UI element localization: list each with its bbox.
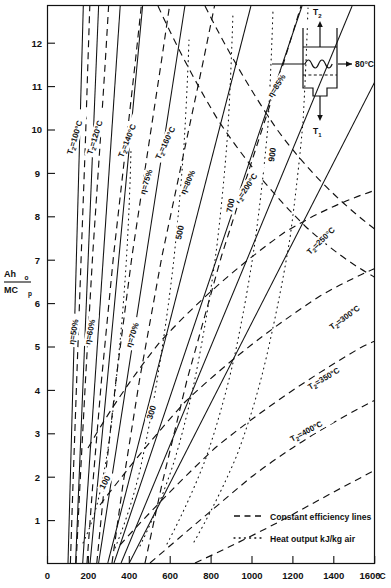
chart-figure: 1 2 3 4 5 6 7 8 9 10 11 12 Ah o MC p 0 2…	[0, 0, 391, 588]
x-tick-label-600: 600	[162, 570, 178, 581]
legend-label-heat-output: Heat output kJ/kg air	[270, 534, 356, 544]
x-axis-unit-label: °C	[376, 571, 386, 581]
x-tick-label-1200: 1200	[282, 570, 303, 581]
y-axis-title-denominator-sub: p	[28, 290, 32, 298]
y-tick-label-9: 9	[35, 168, 40, 179]
x-tick-label-200: 200	[80, 570, 96, 581]
x-tick-label-1000: 1000	[241, 570, 262, 581]
heat-output-label-900: 900	[266, 147, 278, 163]
x-tick-label-0: 0	[45, 570, 50, 581]
y-tick-label-10: 10	[31, 124, 42, 135]
schematic-label-80c: 80°C	[355, 59, 374, 69]
x-tick-label-400: 400	[121, 570, 137, 581]
y-axis-title-numerator: Ah	[4, 269, 16, 279]
y-tick-label-8: 8	[35, 211, 40, 222]
y-tick-label-2: 2	[35, 472, 40, 483]
x-tick-label-1400: 1400	[323, 570, 344, 581]
x-axis-tick-labels: 0 200 400 600 800 1000 1200 1400 1600 °C	[45, 570, 386, 581]
y-axis-title-denominator: MC	[4, 285, 18, 295]
y-tick-label-11: 11	[32, 81, 43, 92]
y-tick-label-12: 12	[31, 38, 42, 49]
y-tick-label-4: 4	[35, 385, 41, 396]
y-tick-label-6: 6	[35, 298, 40, 309]
legend-label-efficiency: Constant efficiency lines	[270, 512, 371, 522]
chart-svg: 1 2 3 4 5 6 7 8 9 10 11 12 Ah o MC p 0 2…	[0, 0, 391, 588]
y-axis-title-numerator-sub: o	[25, 274, 29, 281]
y-tick-label-7: 7	[35, 255, 40, 266]
y-tick-label-1: 1	[35, 515, 41, 526]
y-tick-label-3: 3	[35, 428, 40, 439]
x-tick-label-800: 800	[203, 570, 219, 581]
y-tick-label-5: 5	[35, 341, 41, 352]
